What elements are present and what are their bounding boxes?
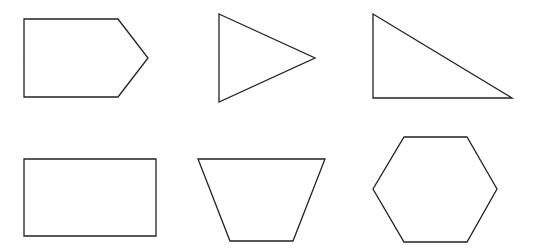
right-triangle-shape [373, 14, 512, 98]
rectangle-shape [24, 159, 156, 236]
hexagon-shape [373, 137, 497, 242]
isosceles-triangle-shape [219, 14, 315, 102]
pentagon-arrow-shape [24, 19, 148, 97]
shapes-canvas [0, 0, 533, 250]
trapezoid-shape [198, 159, 325, 241]
